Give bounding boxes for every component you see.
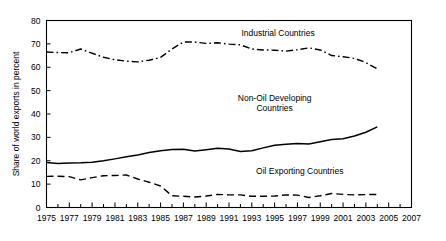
- x-tick-label: 2003: [356, 213, 375, 223]
- x-tick-label: 1993: [242, 213, 261, 223]
- x-tick-label: 1977: [60, 213, 79, 223]
- y-tick-label: 70: [31, 39, 41, 49]
- series-line: [47, 127, 378, 164]
- x-tick-label: 2001: [334, 213, 353, 223]
- x-tick-label: 1991: [220, 213, 239, 223]
- line-chart-canvas: 01020304050607080 1975197719791981198319…: [0, 0, 446, 241]
- y-tick-label: 60: [31, 62, 41, 72]
- y-axis-tick-labels: 01020304050607080: [31, 16, 41, 213]
- y-tick-label: 50: [31, 86, 41, 96]
- x-tick-label: 1983: [128, 213, 147, 223]
- plot-frame: [47, 21, 412, 208]
- y-axis-ticks: [47, 21, 51, 208]
- x-tick-label: 1989: [197, 213, 216, 223]
- y-axis-title: Share of world exports in percent: [11, 51, 21, 176]
- x-tick-label: 1979: [83, 213, 102, 223]
- x-tick-label: 1987: [174, 213, 193, 223]
- x-tick-label: 2005: [379, 213, 398, 223]
- x-tick-label: 1985: [151, 213, 170, 223]
- x-tick-label: 1999: [311, 213, 330, 223]
- y-tick-label: 30: [31, 132, 41, 142]
- y-tick-label: 20: [31, 156, 41, 166]
- x-tick-label: 1981: [105, 213, 124, 223]
- series-label: Industrial Countries: [241, 28, 314, 38]
- series-line: [47, 175, 378, 197]
- chart-figure: 01020304050607080 1975197719791981198319…: [0, 0, 446, 241]
- x-tick-label: 1997: [288, 213, 307, 223]
- x-tick-label: 2007: [402, 213, 421, 223]
- y-tick-label: 80: [31, 16, 41, 26]
- x-tick-label: 1995: [265, 213, 284, 223]
- series-label: Non-Oil DevelopingCountries: [238, 93, 312, 113]
- y-tick-label: 40: [31, 109, 41, 119]
- plot-frame-group: [47, 21, 412, 208]
- y-tick-label: 0: [36, 203, 41, 213]
- x-tick-label: 1975: [37, 213, 56, 223]
- series-line: [47, 42, 378, 69]
- x-axis-tick-labels: 1975197719791981198319851987198919911993…: [37, 213, 421, 223]
- x-axis-ticks: [47, 203, 412, 208]
- y-tick-label: 10: [31, 179, 41, 189]
- series-label: Oil Exporting Countries: [256, 166, 343, 176]
